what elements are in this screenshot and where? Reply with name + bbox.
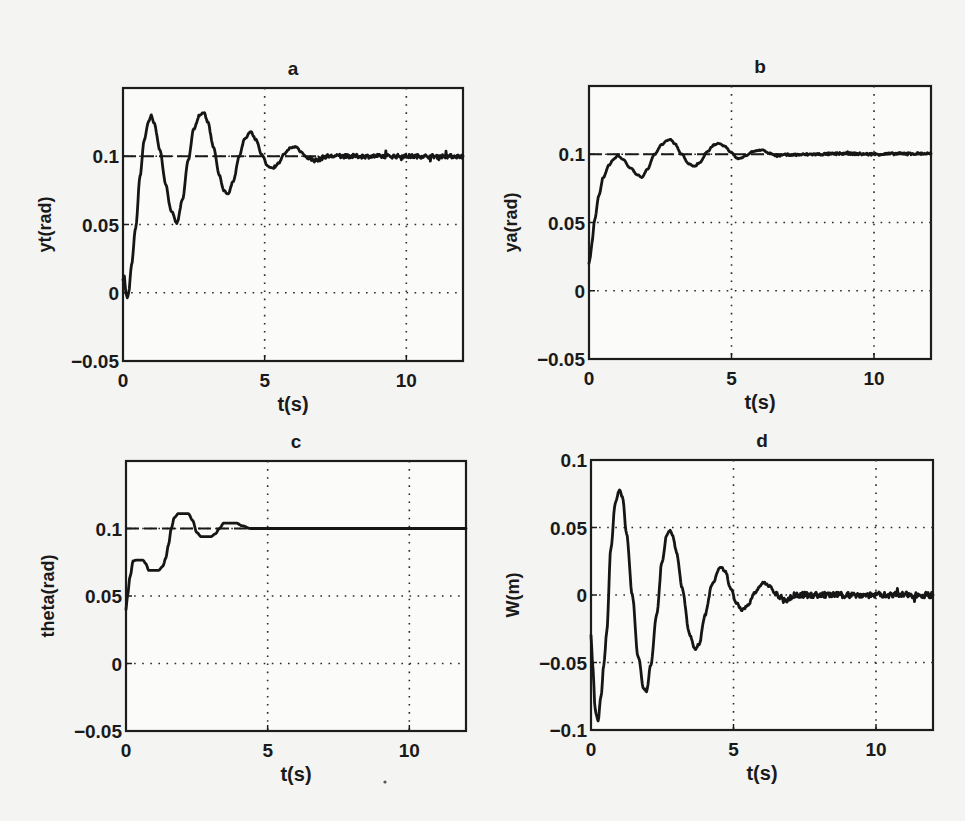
x-tick-label: 10 — [863, 368, 884, 389]
y-tick-label: 0.1 — [561, 450, 588, 471]
axes-area: 0510−0.0500.050.1 — [74, 461, 466, 761]
x-tick-label: 0 — [584, 368, 595, 389]
x-tick-label: 5 — [728, 739, 739, 760]
y-tick-label: −0.05 — [71, 351, 120, 372]
x-axis-label: t(s) — [746, 762, 777, 784]
x-tick-label: 10 — [865, 739, 886, 760]
axes-area: 0510−0.1−0.0500.050.1 — [539, 450, 933, 760]
y-tick-label: −0.05 — [74, 721, 123, 742]
x-axis-label: t(s) — [744, 391, 775, 413]
y-axis-label: W(m) — [503, 573, 523, 618]
y-tick-label: 0 — [574, 281, 585, 302]
x-tick-label: 0 — [121, 740, 132, 761]
x-tick-label: 5 — [726, 368, 737, 389]
y-axis-label: yt(rad) — [35, 196, 55, 252]
y-tick-label: 0.1 — [96, 519, 123, 540]
subplot-title: d — [756, 430, 768, 451]
x-tick-label: 0 — [118, 370, 129, 391]
axes-area: 0510−0.0500.050.1 — [71, 88, 463, 391]
y-tick-label: 0 — [111, 654, 122, 675]
x-tick-label: 0 — [586, 739, 597, 760]
figure: a 0510−0.0500.050.1 t(s) yt(rad) b 0510−… — [0, 0, 965, 821]
y-tick-label: −0.05 — [539, 653, 588, 674]
subplot-title: a — [288, 58, 299, 79]
x-tick-label: 5 — [262, 740, 273, 761]
y-tick-label: −0.05 — [537, 349, 586, 370]
y-tick-label: 0.05 — [82, 215, 119, 236]
scan-speck — [383, 780, 386, 783]
x-axis-label: t(s) — [277, 393, 308, 415]
x-tick-label: 10 — [399, 740, 420, 761]
y-tick-label: 0.05 — [550, 518, 587, 539]
y-tick-label: 0.1 — [559, 144, 586, 165]
subplot-title: b — [754, 56, 766, 77]
y-tick-label: −0.1 — [549, 720, 587, 741]
y-tick-label: 0.05 — [548, 213, 585, 234]
plot-frame — [123, 88, 463, 361]
y-tick-label: 0.05 — [85, 586, 122, 607]
subplot-title: c — [291, 431, 302, 452]
y-tick-label: 0 — [576, 585, 587, 606]
x-tick-label: 10 — [396, 370, 417, 391]
plot-frame — [126, 461, 466, 731]
y-axis-label: ya(rad) — [501, 192, 521, 252]
x-tick-label: 5 — [259, 370, 270, 391]
x-axis-label: t(s) — [280, 763, 311, 785]
axes-area: 0510−0.0500.050.1 — [537, 86, 931, 389]
y-tick-label: 0.1 — [93, 146, 120, 167]
y-tick-label: 0 — [108, 283, 119, 304]
y-axis-label: theta(rad) — [38, 554, 58, 637]
